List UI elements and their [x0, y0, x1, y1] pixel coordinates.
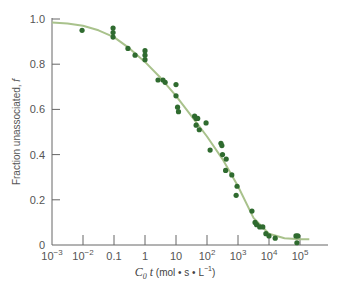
data-point	[266, 233, 271, 238]
data-point	[125, 46, 130, 51]
data-point	[234, 193, 239, 198]
data-point	[176, 109, 181, 114]
x-axis-title: C0 t (mol • s • L−1)	[135, 265, 216, 281]
y-tick-label: 0.2	[30, 194, 45, 206]
data-point	[173, 82, 178, 87]
data-point	[208, 147, 213, 152]
axes: 10−310−20.111010210310410500.20.40.60.81…	[30, 13, 328, 262]
data-point	[195, 116, 200, 121]
y-axis-title-text: Fraction unassociated, f	[11, 78, 22, 185]
x-tick-label: 10−2	[72, 248, 94, 262]
x-tick-label: 103	[230, 248, 247, 262]
chart: 10−310−20.111010210310410500.20.40.60.81…	[0, 0, 344, 288]
data-point	[110, 25, 115, 30]
x-tick-label: 105	[292, 248, 309, 262]
fit-curve-line	[52, 22, 309, 239]
data-point	[110, 34, 115, 39]
data-point	[110, 30, 115, 35]
data-point	[142, 53, 147, 58]
data-point	[229, 172, 234, 177]
x-tick-label: 1	[142, 250, 148, 262]
x-axis-title-text: C0 t (mol • s • L−1)	[135, 265, 216, 281]
data-point	[234, 184, 239, 189]
y-tick-label: 1.0	[30, 13, 45, 25]
data-point	[220, 152, 225, 157]
data-point	[194, 123, 199, 128]
data-point	[142, 57, 147, 62]
data-point	[249, 209, 254, 214]
data-point	[173, 93, 178, 98]
data-point	[203, 120, 208, 125]
data-point	[155, 77, 160, 82]
data-point	[175, 105, 180, 110]
x-tick-label: 10	[170, 250, 182, 262]
data-point	[294, 240, 299, 245]
data-point	[295, 233, 300, 238]
data-points	[79, 25, 300, 245]
data-point	[132, 53, 137, 58]
fit-curve	[52, 22, 309, 239]
y-tick-label: 0.6	[30, 103, 45, 115]
x-tick-label: 102	[199, 248, 216, 262]
x-tick-label: 104	[261, 248, 278, 262]
data-point	[219, 143, 224, 148]
data-point	[163, 80, 168, 85]
data-point	[224, 157, 229, 162]
x-tick-label: 0.1	[106, 250, 121, 262]
y-tick-label: 0	[39, 239, 45, 251]
y-tick-label: 0.8	[30, 58, 45, 70]
data-point	[260, 224, 265, 229]
data-point	[142, 48, 147, 53]
data-point	[79, 28, 84, 33]
y-axis-title: Fraction unassociated, f	[11, 78, 22, 185]
data-point	[223, 168, 228, 173]
data-point	[273, 236, 278, 241]
data-point	[197, 127, 202, 132]
y-tick-label: 0.4	[30, 149, 45, 161]
